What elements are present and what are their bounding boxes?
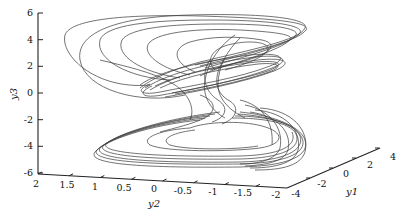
y1-tick: 0	[343, 168, 349, 179]
y2-tick: 0	[151, 183, 157, 194]
y3-tick: 2	[27, 60, 33, 71]
y1-tick: 4	[390, 151, 396, 162]
y1-axis-label: y1	[345, 186, 358, 197]
y2-tick: -1.5	[234, 187, 252, 198]
y2-tick: 1	[92, 181, 98, 192]
y3-tick: -4	[24, 140, 33, 151]
y3-tick: -2	[24, 114, 33, 125]
y1-tick: -2	[317, 178, 326, 189]
y2-axis: 2 1.5 1 0.5 0 -0.5 -1 -1.5 -2 y2	[33, 172, 287, 209]
attractor-3d-plot: 6 4 2 0 -2 -4 -6 y3 2 1.5 1 0.5 0 -0.5 -…	[0, 0, 404, 222]
y3-tick: 6	[27, 7, 33, 18]
y2-tick: 1.5	[59, 179, 74, 190]
y3-tick: 4	[27, 34, 33, 45]
y2-axis-label: y2	[147, 198, 160, 209]
y1-tick: -4	[291, 188, 300, 199]
y3-tick: -6	[24, 167, 33, 178]
y1-tick: 2	[367, 159, 373, 170]
attractor-trajectory	[65, 15, 307, 170]
y2-tick: 0.5	[116, 182, 131, 193]
y2-tick: 2	[33, 178, 39, 189]
y2-tick: -1	[208, 186, 217, 197]
y3-axis-label: y3	[8, 88, 19, 101]
y2-tick: -2	[271, 189, 280, 200]
y3-axis: 6 4 2 0 -2 -4 -6 y3	[8, 7, 43, 178]
y3-tick: 0	[27, 87, 33, 98]
y2-tick: -0.5	[174, 185, 192, 196]
